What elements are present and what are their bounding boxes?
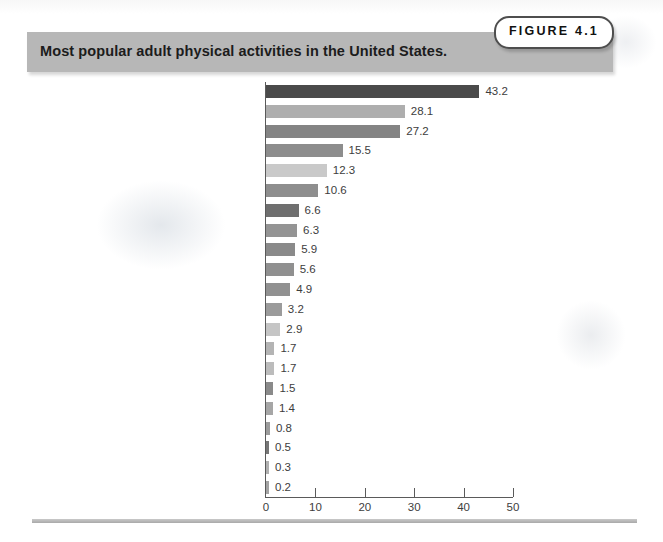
x-tick <box>315 488 316 497</box>
bar-value-label: 6.6 <box>305 203 321 217</box>
x-tick-label: 40 <box>449 501 479 513</box>
x-tick-label: 20 <box>350 501 380 513</box>
bar <box>266 204 299 217</box>
bar <box>266 283 290 296</box>
bar-value-label: 2.9 <box>286 322 302 336</box>
x-tick-label: 0 <box>251 501 281 513</box>
bar <box>266 362 274 375</box>
bar <box>266 263 294 276</box>
bar-value-label: 43.2 <box>485 84 507 98</box>
y-axis-line <box>265 82 266 498</box>
bar-value-label: 1.5 <box>279 381 295 395</box>
bar-value-label: 6.3 <box>303 223 319 237</box>
x-tick <box>414 488 415 497</box>
bar-value-label: 3.2 <box>288 302 304 316</box>
bar <box>266 323 280 336</box>
bar <box>266 342 274 355</box>
bar-value-label: 28.1 <box>411 104 433 118</box>
footer-divider <box>32 519 637 523</box>
bar-value-label: 0.5 <box>275 440 291 454</box>
bar <box>266 144 343 157</box>
figure-number-badge: FIGURE 4.1 <box>494 16 614 49</box>
bar-value-label: 15.5 <box>349 143 371 157</box>
bar <box>266 382 273 395</box>
bar-value-label: 27.2 <box>406 124 428 138</box>
scan-artifact-top <box>0 0 663 14</box>
bar <box>266 85 479 98</box>
bar-value-label: 0.2 <box>275 480 291 494</box>
bar-chart: Walking for exercise43.2Gardening/yard w… <box>0 82 663 522</box>
bar-value-label: 5.9 <box>301 242 317 256</box>
x-axis-line <box>265 497 513 498</box>
bar-value-label: 1.4 <box>279 401 295 415</box>
bar-value-label: 1.7 <box>280 341 296 355</box>
bar-value-label: 5.6 <box>300 262 316 276</box>
x-tick <box>464 488 465 497</box>
x-tick <box>513 488 514 497</box>
bar-value-label: 1.7 <box>280 361 296 375</box>
bar <box>266 105 405 118</box>
bar <box>266 224 297 237</box>
bar <box>266 422 270 435</box>
bar <box>266 461 269 474</box>
bar <box>266 243 295 256</box>
bar <box>266 481 269 494</box>
figure-title: Most popular adult physical activities i… <box>40 43 447 59</box>
bar <box>266 303 282 316</box>
bar-value-label: 10.6 <box>324 183 346 197</box>
bar-value-label: 4.9 <box>296 282 312 296</box>
x-tick-label: 30 <box>399 501 429 513</box>
x-tick-label: 10 <box>300 501 330 513</box>
bar-value-label: 0.3 <box>275 460 291 474</box>
bar <box>266 184 318 197</box>
bar <box>266 125 400 138</box>
x-tick-label: 50 <box>498 501 528 513</box>
bar <box>266 164 327 177</box>
bar <box>266 441 269 454</box>
bar <box>266 402 273 415</box>
figure-number-label: FIGURE 4.1 <box>496 24 612 38</box>
bar-value-label: 12.3 <box>333 163 355 177</box>
bar-value-label: 0.8 <box>276 421 292 435</box>
x-tick <box>365 488 366 497</box>
